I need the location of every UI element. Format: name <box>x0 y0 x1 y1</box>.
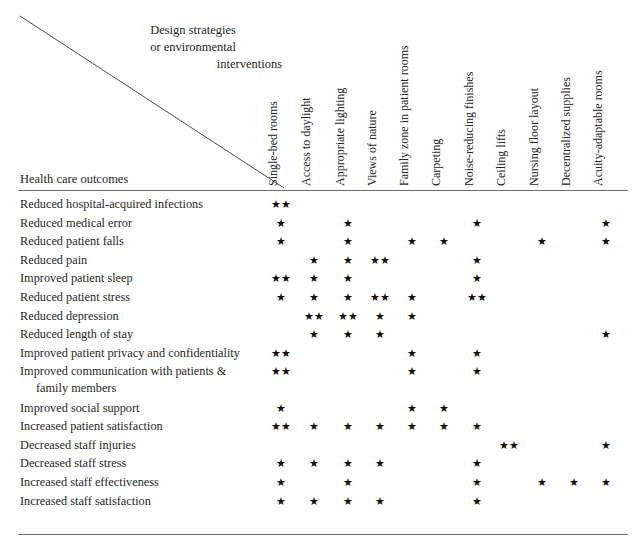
column-header: Single-bed rooms <box>267 101 279 186</box>
matrix-cell-star: ★ <box>268 494 294 508</box>
footer-rule <box>18 534 628 535</box>
row-label: Decreased staff injuries <box>20 438 136 452</box>
matrix-cell-star: ★ <box>268 216 294 230</box>
matrix-cell-star: ★ <box>335 290 361 304</box>
matrix-cell-star: ★ <box>335 271 361 285</box>
row-label: Improved communication with patients & <box>20 364 226 378</box>
matrix-cell-star: ★ <box>335 494 361 508</box>
matrix-cell-star: ★ <box>431 234 457 248</box>
matrix-row: Reduced pain★★★★★ <box>0 253 640 272</box>
matrix-row: Reduced patient falls★★★★★★ <box>0 234 640 253</box>
matrix-cell-star: ★ <box>367 419 393 433</box>
matrix-cell-star: ★ <box>335 216 361 230</box>
column-header: Access to daylight <box>300 97 312 186</box>
row-label: Increased staff satisfaction <box>20 494 151 508</box>
row-label: Reduced pain <box>20 253 87 267</box>
matrix-row: Reduced patient stress★★★★★★★★ <box>0 290 640 309</box>
matrix-row: Reduced length of stay★★★★ <box>0 327 640 346</box>
column-header: Views of nature <box>366 110 378 186</box>
row-label: Reduced patient falls <box>20 234 124 248</box>
row-label: Reduced hospital-acquired infections <box>20 197 203 211</box>
matrix-cell-star: ★ <box>464 253 490 267</box>
matrix-cell-star: ★ <box>301 419 327 433</box>
matrix-cell-star: ★★ <box>268 271 294 285</box>
matrix-cell-star: ★★ <box>268 197 294 211</box>
matrix-row: Reduced medical error★★★★ <box>0 216 640 235</box>
matrix-row: Improved social support★★★ <box>0 401 640 420</box>
column-header: Appropriate lighting <box>334 88 346 186</box>
matrix-row: Increased patient satisfaction★★★★★★★★ <box>0 419 640 438</box>
matrix-cell-star: ★ <box>335 327 361 341</box>
matrix-row-continuation: family members <box>0 381 640 400</box>
matrix-cell-star: ★ <box>335 253 361 267</box>
matrix-cell-star: ★ <box>593 327 619 341</box>
matrix-cell-star: ★ <box>399 401 425 415</box>
row-label: Decreased staff stress <box>20 456 126 470</box>
matrix-cell-star: ★ <box>464 216 490 230</box>
row-label: Improved patient sleep <box>20 271 133 285</box>
row-label: Improved social support <box>20 401 140 415</box>
matrix-cell-star: ★ <box>464 271 490 285</box>
row-label: Increased staff effectiveness <box>20 475 159 489</box>
matrix-cell-star: ★ <box>301 456 327 470</box>
matrix-cell-star: ★ <box>399 290 425 304</box>
matrix-cell-star: ★ <box>399 419 425 433</box>
matrix-cell-star: ★ <box>593 234 619 248</box>
matrix-cell-star: ★ <box>268 234 294 248</box>
row-label: Reduced length of stay <box>20 327 133 341</box>
matrix-row: Improved patient sleep★★★★★ <box>0 271 640 290</box>
matrix-cell-star: ★ <box>399 346 425 360</box>
matrix-cell-star: ★★ <box>496 438 522 452</box>
matrix-cell-star: ★ <box>367 456 393 470</box>
column-header: Carpeting <box>430 139 442 186</box>
row-label: Reduced medical error <box>20 216 132 230</box>
matrix-cell-star: ★★ <box>464 290 490 304</box>
column-header: Nursing floor layout <box>528 88 540 186</box>
matrix-cell-star: ★ <box>268 475 294 489</box>
matrix-cell-star: ★ <box>529 234 555 248</box>
matrix-cell-star: ★ <box>335 456 361 470</box>
row-label: Increased patient satisfaction <box>20 419 163 433</box>
column-header: Ceiling lifts <box>495 129 507 186</box>
matrix-cell-star: ★ <box>464 456 490 470</box>
matrix-cell-star: ★ <box>335 475 361 489</box>
matrix-cell-star: ★ <box>529 475 555 489</box>
matrix-cell-star: ★ <box>464 364 490 378</box>
matrix-cell-star: ★ <box>399 309 425 323</box>
matrix-cell-star: ★ <box>431 401 457 415</box>
matrix-cell-star: ★ <box>593 475 619 489</box>
matrix-cell-star: ★ <box>464 494 490 508</box>
column-header: Decentralized supplies <box>560 77 572 186</box>
column-header: Family zone in patient rooms <box>398 45 410 186</box>
matrix-cell-star: ★ <box>431 419 457 433</box>
matrix-cell-star: ★ <box>301 253 327 267</box>
matrix-cell-star: ★ <box>367 327 393 341</box>
row-label-continuation: family members <box>36 381 116 395</box>
column-headers: Single-bed roomsAccess to daylightApprop… <box>0 0 640 186</box>
matrix-cell-star: ★ <box>335 419 361 433</box>
matrix-cell-star: ★ <box>301 271 327 285</box>
column-header: Acuity-adaptable rooms <box>592 70 604 186</box>
matrix-cell-star: ★★ <box>268 346 294 360</box>
matrix-row: Decreased staff injuries★★★ <box>0 438 640 457</box>
matrix-row: Reduced depression★★★★★★ <box>0 309 640 328</box>
matrix-cell-star: ★ <box>367 309 393 323</box>
matrix-cell-star: ★★ <box>268 364 294 378</box>
matrix-cell-star: ★ <box>335 234 361 248</box>
matrix-header-zone: Design strategies or environmental inter… <box>0 0 640 191</box>
row-label: Reduced depression <box>20 309 119 323</box>
matrix-cell-star: ★ <box>367 494 393 508</box>
matrix-cell-star: ★★ <box>335 309 361 323</box>
matrix-cell-star: ★ <box>268 401 294 415</box>
matrix-cell-star: ★ <box>268 456 294 470</box>
column-header: Noise-reducing finishes <box>463 72 475 186</box>
matrix-cell-star: ★ <box>301 327 327 341</box>
row-label: Improved patient privacy and confidentia… <box>20 346 240 360</box>
matrix-cell-star: ★ <box>464 475 490 489</box>
matrix-cell-star: ★★ <box>301 309 327 323</box>
matrix-row: Improved patient privacy and confidentia… <box>0 346 640 365</box>
matrix-row: Increased staff satisfaction★★★★★ <box>0 494 640 513</box>
matrix-cell-star: ★★ <box>367 253 393 267</box>
matrix-cell-star: ★ <box>464 346 490 360</box>
matrix-cell-star: ★ <box>593 216 619 230</box>
